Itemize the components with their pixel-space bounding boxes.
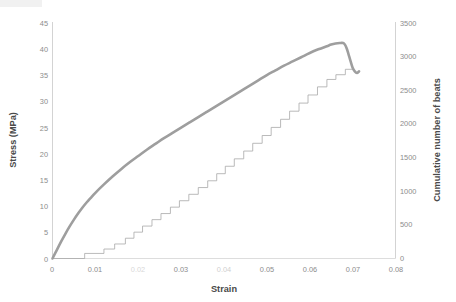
x-tick-0.07: 0.07 xyxy=(346,265,360,274)
y-right-axis-title: Cumulative number of beats xyxy=(432,78,442,202)
y-right-tick-500: 500 xyxy=(400,220,412,229)
y-left-tick-45: 45 xyxy=(40,19,48,28)
y-left-tick-30: 30 xyxy=(40,97,48,106)
y-left-tick-labels: 45 40 35 30 25 20 15 10 5 0 xyxy=(40,19,48,264)
y-left-tick-5: 5 xyxy=(44,228,48,237)
series-group xyxy=(53,43,360,259)
y-right-tick-1000: 1000 xyxy=(400,187,416,196)
x-tick-0: 0 xyxy=(50,265,54,274)
y-right-tick-0: 0 xyxy=(400,254,404,263)
y-right-tick-3000: 3000 xyxy=(400,52,416,61)
y-right-tick-2500: 2500 xyxy=(400,86,416,95)
y-right-tick-1500: 1500 xyxy=(400,153,416,162)
series-stress-line xyxy=(53,43,360,259)
y-right-tick-3500: 3500 xyxy=(400,19,416,28)
y-right-tick-2000: 2000 xyxy=(400,119,416,128)
x-tick-0.01: 0.01 xyxy=(88,265,102,274)
x-tick-0.04: 0.04 xyxy=(217,265,231,274)
stress-strain-chart: 45 40 35 30 25 20 15 10 5 0 3500 3000 25… xyxy=(0,0,456,302)
chart-container: 45 40 35 30 25 20 15 10 5 0 3500 3000 25… xyxy=(0,0,456,302)
series-cumulative-beats-line xyxy=(53,69,353,258)
y-left-tick-15: 15 xyxy=(40,176,48,185)
y-left-tick-20: 20 xyxy=(40,150,48,159)
y-left-axis-title: Stress (MPa) xyxy=(8,112,18,168)
y-right-tick-labels: 3500 3000 2500 2000 1500 1000 500 0 xyxy=(400,19,416,263)
x-tick-0.06: 0.06 xyxy=(303,265,317,274)
y-left-tick-10: 10 xyxy=(40,202,48,211)
y-left-tick-25: 25 xyxy=(40,124,48,133)
y-left-tick-35: 35 xyxy=(40,71,48,80)
x-tick-0.02: 0.02 xyxy=(131,265,145,274)
x-tick-0.05: 0.05 xyxy=(260,265,274,274)
x-axis-title: Strain xyxy=(211,284,237,294)
x-tick-0.08: 0.08 xyxy=(389,265,403,274)
y-left-tick-40: 40 xyxy=(40,45,48,54)
y-left-tick-0: 0 xyxy=(44,255,48,264)
x-tick-labels: 0 0.01 0.02 0.03 0.04 0.05 0.06 0.07 0.0… xyxy=(50,265,403,274)
x-tick-0.03: 0.03 xyxy=(174,265,188,274)
